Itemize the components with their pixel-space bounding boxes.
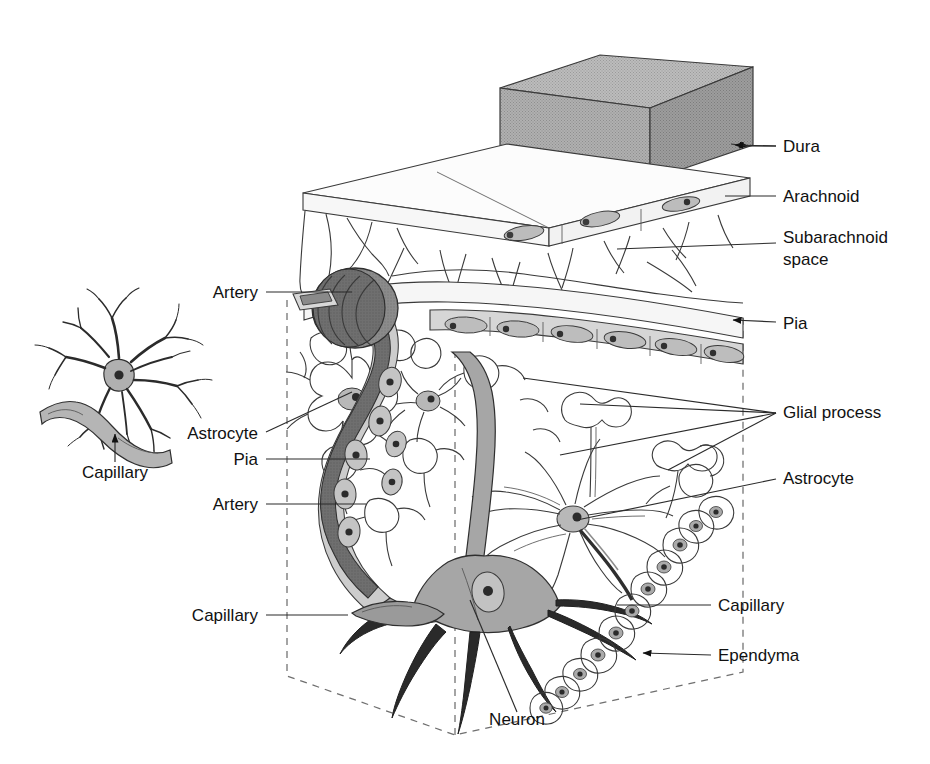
label-subarachnoid-space: Subarachnoid — [783, 228, 888, 247]
label-artery-lower: Artery — [213, 495, 259, 514]
label-ependyma: Ependyma — [718, 646, 800, 665]
label-dura: Dura — [783, 137, 820, 156]
label-pia: Pia — [783, 314, 808, 333]
label-pia-left: Pia — [233, 450, 258, 469]
label-arachnoid: Arachnoid — [783, 187, 860, 206]
meninges-diagram-svg: Dura Arachnoid Subarachnoid space Pia Gl… — [0, 0, 930, 764]
label-subarachnoid-space-line2: space — [783, 250, 828, 269]
figure-root: Dura Arachnoid Subarachnoid space Pia Gl… — [0, 0, 930, 764]
label-astrocyte-right: Astrocyte — [783, 469, 854, 488]
label-artery-top: Artery — [213, 283, 259, 302]
label-capillary-inset: Capillary — [82, 463, 149, 482]
label-capillary-right: Capillary — [718, 596, 785, 615]
label-capillary-left: Capillary — [192, 606, 259, 625]
label-astrocyte-left: Astrocyte — [187, 424, 258, 443]
label-neuron: Neuron — [489, 710, 545, 729]
label-glial-process: Glial process — [783, 403, 881, 422]
